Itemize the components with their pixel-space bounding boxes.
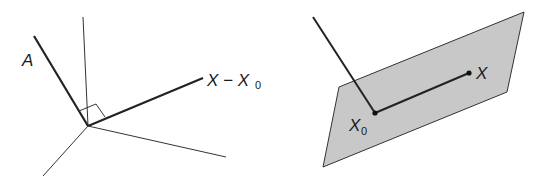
right-figure-plane: X X 0 bbox=[313, 12, 524, 167]
point-x bbox=[466, 70, 471, 75]
label-a: A bbox=[21, 51, 33, 70]
diagram-canvas: A X − X 0 X X 0 bbox=[0, 0, 541, 190]
plane bbox=[323, 12, 524, 167]
right-angle-marker bbox=[79, 104, 105, 117]
thin-line-lower-left bbox=[43, 126, 88, 176]
thin-line-up bbox=[83, 17, 88, 126]
left-figure-orthogonal-vectors: A X − X 0 bbox=[21, 17, 261, 176]
normal-vector-a bbox=[34, 36, 88, 126]
label-x-minus-x0: X − X bbox=[206, 71, 250, 90]
thin-line-lower-right bbox=[88, 126, 226, 157]
label-x-minus-x0-subscript: 0 bbox=[255, 79, 261, 91]
label-x0-subscript: 0 bbox=[361, 125, 367, 137]
label-x0: X bbox=[348, 116, 361, 135]
difference-vector-line bbox=[88, 78, 203, 126]
label-x: X bbox=[475, 64, 488, 83]
geometry-diagram: A X − X 0 X X 0 bbox=[0, 0, 541, 190]
point-x0 bbox=[372, 110, 377, 115]
